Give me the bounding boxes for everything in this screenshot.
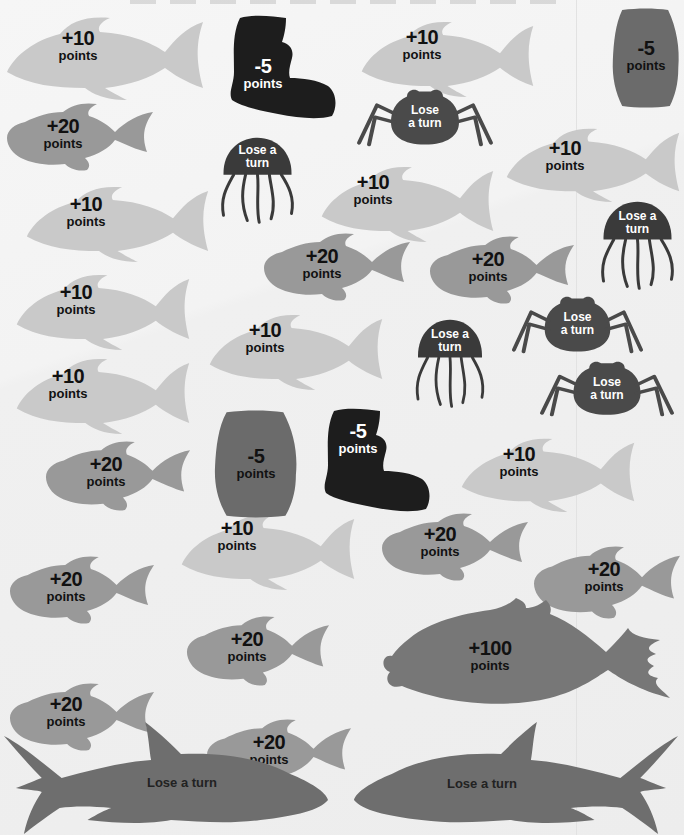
medium-fish-card[interactable]: +20 points — [380, 512, 530, 582]
points-value: +10 — [338, 172, 408, 192]
points-unit: points — [202, 539, 272, 552]
points-unit: points — [33, 387, 103, 400]
boot-card[interactable]: -5 points — [228, 14, 338, 119]
points-value: +20 — [217, 629, 277, 649]
points-value: +20 — [33, 116, 93, 136]
points-value: -5 — [214, 446, 298, 466]
shark-card[interactable]: Lose a turn — [2, 720, 330, 835]
points-value: +10 — [387, 27, 457, 47]
light-fish-card[interactable]: +10 points — [460, 432, 636, 512]
points-value: +20 — [36, 569, 96, 589]
points-unit: points — [574, 580, 634, 593]
points-unit: points — [455, 659, 525, 672]
points-value: -5 — [322, 421, 394, 441]
shark-card[interactable]: Lose a turn — [352, 720, 680, 835]
points-unit: points — [76, 475, 136, 488]
points-value: +20 — [410, 524, 470, 544]
barrel-card[interactable]: -5 points — [612, 8, 680, 108]
points-value: +20 — [76, 454, 136, 474]
light-fish-card[interactable]: +10 points — [5, 10, 205, 100]
points-unit: points — [458, 270, 518, 283]
penalty-line2: turn — [595, 223, 680, 236]
medium-fish-card[interactable]: +20 points — [44, 440, 192, 512]
crab-card[interactable]: Lose a turn — [538, 360, 676, 418]
points-value: +20 — [36, 694, 96, 714]
points-value: -5 — [228, 56, 298, 76]
penalty-line2: turn — [410, 341, 490, 354]
shark-penalty-label: Lose a turn — [147, 775, 217, 790]
points-value: +10 — [51, 194, 121, 214]
points-unit: points — [51, 215, 121, 228]
points-unit: points — [217, 650, 277, 663]
points-unit: points — [43, 49, 113, 62]
medium-fish-card[interactable]: +20 points — [8, 555, 156, 625]
title-partial — [130, 0, 570, 4]
crab-card[interactable]: Lose a turn — [355, 88, 495, 148]
medium-fish-card[interactable]: +20 points — [185, 615, 331, 687]
points-unit: points — [410, 545, 470, 558]
points-unit: points — [41, 303, 111, 316]
medium-fish-card[interactable]: +20 points — [262, 232, 412, 302]
big-fish-card[interactable]: +100 points — [380, 598, 680, 708]
medium-fish-card[interactable]: +20 points — [5, 102, 155, 172]
points-unit: points — [525, 159, 605, 172]
light-fish-card[interactable]: +10 points — [360, 15, 535, 97]
light-fish-card[interactable]: +10 points — [320, 160, 495, 242]
points-unit: points — [36, 590, 96, 603]
points-value: +20 — [458, 249, 518, 269]
points-unit: points — [338, 193, 408, 206]
points-value: +10 — [41, 282, 111, 302]
points-unit: points — [387, 48, 457, 61]
light-fish-card[interactable]: +10 points — [180, 508, 356, 590]
points-value: +10 — [43, 28, 113, 48]
penalty-line2: a turn — [355, 117, 495, 130]
points-value: +20 — [574, 559, 634, 579]
points-unit: points — [612, 59, 680, 72]
points-unit: points — [230, 341, 300, 354]
penalty-line2: a turn — [538, 389, 676, 402]
light-fish-card[interactable]: +10 points — [15, 268, 191, 350]
points-value: +10 — [202, 518, 272, 538]
barrel-card[interactable]: -5 points — [214, 410, 298, 518]
penalty-line2: a turn — [510, 324, 645, 337]
penalty-line2: turn — [215, 157, 300, 170]
crab-card[interactable]: Lose a turn — [510, 295, 645, 355]
light-fish-card[interactable]: +10 points — [208, 308, 384, 390]
light-fish-card[interactable]: +10 points — [15, 352, 191, 434]
points-value: +10 — [484, 444, 554, 464]
boot-card[interactable]: -5 points — [322, 407, 432, 512]
points-value: +10 — [33, 366, 103, 386]
big-fish-icon — [380, 598, 680, 708]
shark-penalty-label: Lose a turn — [447, 776, 517, 791]
points-value: -5 — [612, 38, 680, 58]
points-unit: points — [484, 465, 554, 478]
points-unit: points — [292, 267, 352, 280]
points-value: +100 — [455, 638, 525, 658]
points-value: +10 — [230, 320, 300, 340]
points-unit: points — [214, 467, 298, 480]
jellyfish-card[interactable]: Lose a turn — [595, 200, 680, 290]
points-unit: points — [228, 77, 298, 90]
jellyfish-card[interactable]: Lose a turn — [215, 136, 300, 224]
jellyfish-card[interactable]: Lose a turn — [410, 318, 490, 408]
points-unit: points — [322, 442, 394, 455]
light-fish-card[interactable]: +10 points — [505, 122, 681, 202]
points-value: +20 — [292, 246, 352, 266]
points-value: +10 — [525, 138, 605, 158]
light-fish-card[interactable]: +10 points — [25, 180, 210, 262]
points-unit: points — [33, 137, 93, 150]
